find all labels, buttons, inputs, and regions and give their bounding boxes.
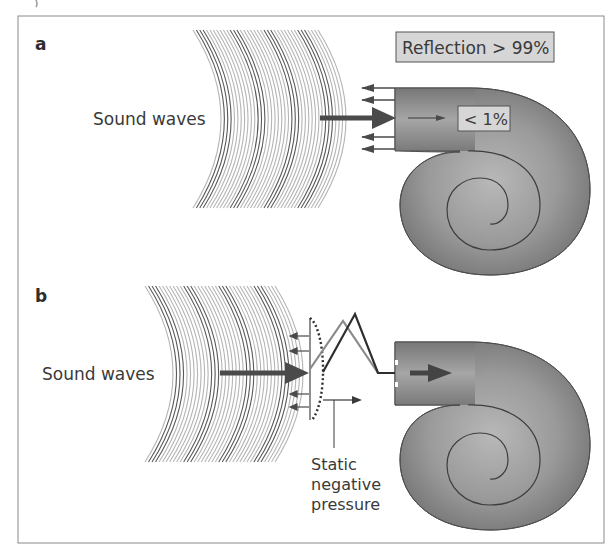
panel-b-sound-waves-label: Sound waves <box>42 364 155 384</box>
transmission-label: < 1% <box>464 110 508 129</box>
panel-b: b Sound waves <box>35 286 590 530</box>
reflection-label: Reflection > 99% <box>402 38 549 58</box>
caption-fragment <box>36 0 37 7</box>
transmission-label-box: < 1% <box>458 106 510 131</box>
panel-b-letter: b <box>35 286 47 306</box>
pressure-label-line-1: Static <box>311 455 357 474</box>
negative-pressure-arrow <box>323 396 362 448</box>
cochlea-b <box>395 342 590 530</box>
figure: a Sound waves <box>0 0 610 552</box>
pressure-label-line-3: pressure <box>311 495 380 514</box>
panel-a-letter: a <box>35 34 46 54</box>
diagram-canvas: a Sound waves <box>0 0 610 552</box>
reflection-label-box: Reflection > 99% <box>396 32 554 62</box>
incoming-arrow-a <box>320 107 396 129</box>
panel-a: a Sound waves <box>35 30 590 275</box>
panel-a-sound-waves-label: Sound waves <box>93 109 206 129</box>
retracted-eardrum-dotted <box>310 318 323 420</box>
pressure-label-line-2: negative <box>311 475 381 494</box>
